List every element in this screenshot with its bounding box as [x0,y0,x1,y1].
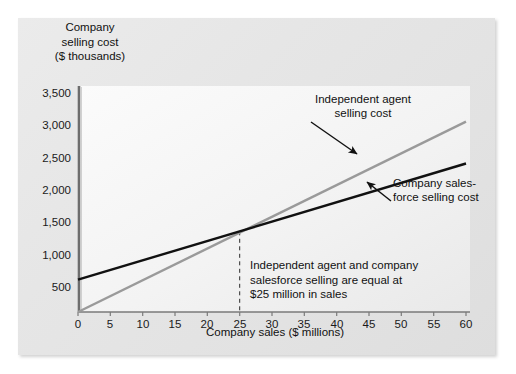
y-axis-title-line-2: selling cost [30,35,150,50]
annotation-independent-agent-line-1: Independent agent [298,92,428,106]
annotation-company-salesforce-line-2: force selling cost [393,190,498,204]
y-tick-label-3500: 3,500 [23,87,71,99]
annotation-independent-agent-line-2: selling cost [298,106,428,120]
annotation-company-salesforce: Company sales- force selling cost [393,176,498,204]
annotation-company-salesforce-line-1: Company sales- [393,176,498,190]
y-tick-label-500: 500 [23,281,71,293]
annotation-breakeven: Independent agent and company salesforce… [250,258,440,302]
y-axis-title-line-1: Company [30,20,150,35]
x-tick-label-60: 60 [452,318,480,330]
x-tick-label-5: 5 [96,318,124,330]
y-tick-label-2500: 2,500 [23,152,71,164]
y-tick-label-1000: 1,000 [23,249,71,261]
x-tick-label-0: 0 [64,318,92,330]
x-axis-title: Company sales ($ millions) [150,326,400,338]
x-tick-label-55: 55 [420,318,448,330]
y-axis-title-line-3: ($ thousands) [30,49,150,64]
y-axis-title: Company selling cost ($ thousands) [30,20,150,64]
y-tick-label-1500: 1,500 [23,216,71,228]
annotation-breakeven-line-2: salesforce selling are equal at [250,273,440,288]
annotation-breakeven-line-1: Independent agent and company [250,258,440,273]
y-tick-label-2000: 2,000 [23,184,71,196]
annotation-independent-agent: Independent agent selling cost [298,92,428,120]
y-tick-label-3000: 3,000 [23,119,71,131]
annotation-breakeven-line-3: $25 million in sales [250,287,440,302]
